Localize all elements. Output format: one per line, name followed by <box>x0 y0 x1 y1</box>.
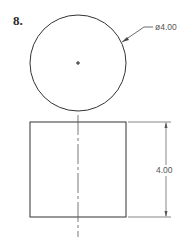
center-mark-icon <box>76 61 80 65</box>
dimension-arrow-down-icon <box>165 211 168 217</box>
technical-drawing <box>0 0 192 246</box>
diameter-leader <box>122 27 153 42</box>
diameter-dimension-label: ø4.00 <box>155 23 177 32</box>
front-view <box>30 115 171 237</box>
dimension-arrow-up-icon <box>165 122 168 128</box>
height-dimension-label: 4.00 <box>156 165 173 176</box>
top-view <box>30 15 153 111</box>
